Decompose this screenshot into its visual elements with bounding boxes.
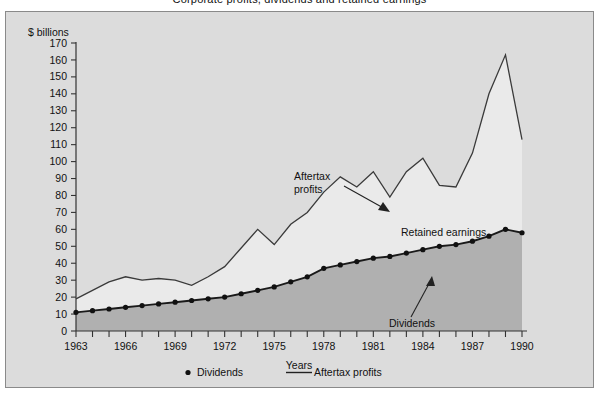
dividends-data-point [420, 247, 425, 252]
dividends-data-point [371, 256, 376, 261]
legend-dividends-label: Dividends [197, 366, 243, 378]
dividends-data-point [470, 239, 475, 244]
x-tick-label: 1969 [163, 340, 187, 352]
dividends-data-point [272, 284, 277, 289]
aftertax-profits-annotation-line1: Aftertax [294, 170, 331, 182]
dividends-data-point [387, 254, 392, 259]
x-tick-label: 1978 [312, 340, 336, 352]
dividends-data-point [106, 306, 111, 311]
legend-aftertax-profits-label: Aftertax profits [314, 366, 382, 378]
dividends-data-point [73, 310, 78, 315]
dividends-data-point [189, 298, 194, 303]
dividends-data-point [321, 266, 326, 271]
dividends-data-point [519, 230, 524, 235]
dividends-data-point [288, 279, 293, 284]
x-tick-label: 1990 [510, 340, 534, 352]
x-tick-label: 1984 [411, 340, 435, 352]
dividends-data-point [305, 274, 310, 279]
y-tick-label: 10 [55, 308, 67, 320]
y-tick-label: 170 [49, 37, 67, 49]
y-tick-label: 70 [55, 206, 67, 218]
dividends-data-point [90, 308, 95, 313]
x-axis-title: Years [286, 359, 312, 371]
dividends-data-point [453, 242, 458, 247]
y-tick-label: 160 [49, 54, 67, 66]
y-axis-units-label: $ billions [28, 26, 69, 38]
figure-title: Corporate profits, dividends and retaine… [0, 0, 599, 5]
dividends-data-point [123, 305, 128, 310]
dividends-data-point [255, 288, 260, 293]
y-tick-label: 140 [49, 87, 67, 99]
y-tick-label: 60 [55, 223, 67, 235]
dividends-data-point [173, 300, 178, 305]
dividends-data-point [139, 303, 144, 308]
x-tick-label: 1975 [263, 340, 287, 352]
legend-dividends-marker [185, 370, 190, 375]
y-tick-label: 40 [55, 257, 67, 269]
dividends-data-point [354, 259, 359, 264]
y-tick-label: 100 [49, 155, 67, 167]
y-tick-label: 120 [49, 121, 67, 133]
y-tick-label: 30 [55, 274, 67, 286]
dividends-data-point [338, 262, 343, 267]
chart-frame: 0102030405060708090100110120130140150160… [5, 11, 594, 388]
y-tick-label: 90 [55, 172, 67, 184]
dividends-data-point [486, 234, 491, 239]
y-tick-label: 150 [49, 70, 67, 82]
dividends-data-point [206, 296, 211, 301]
aftertax-profits-annotation-line2: profits [294, 183, 323, 195]
x-tick-label: 1981 [362, 340, 386, 352]
chart-screenshot: Corporate profits, dividends and retaine… [0, 0, 599, 394]
x-tick-label: 1963 [64, 340, 88, 352]
y-tick-label: 80 [55, 189, 67, 201]
y-tick-label: 50 [55, 240, 67, 252]
dividends-data-point [239, 291, 244, 296]
dividends-data-point [222, 295, 227, 300]
y-tick-label: 0 [61, 325, 67, 337]
dividends-annotation-text: Dividends [389, 317, 435, 329]
chart-canvas: 0102030405060708090100110120130140150160… [6, 12, 593, 387]
dividends-data-point [156, 301, 161, 306]
y-tick-label: 20 [55, 291, 67, 303]
x-tick-label: 1972 [213, 340, 237, 352]
dividends-data-point [437, 244, 442, 249]
cropped-title-strip: Corporate profits, dividends and retaine… [0, 0, 599, 9]
y-tick-label: 110 [50, 138, 67, 150]
retained-earnings-annotation-text: Retained earnings [401, 226, 486, 238]
dividends-data-point [503, 227, 508, 232]
y-tick-label: 130 [49, 104, 67, 116]
x-tick-label: 1966 [114, 340, 138, 352]
x-tick-label: 1987 [461, 340, 485, 352]
dividends-data-point [404, 250, 409, 255]
